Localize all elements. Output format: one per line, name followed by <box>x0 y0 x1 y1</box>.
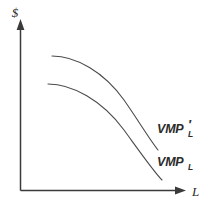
y-axis-label: $ <box>12 5 19 20</box>
curve-label-vmp-l-subscript: L <box>188 162 193 172</box>
x-axis-label: L <box>191 184 199 199</box>
curve-label-vmp-prime-l-base: VMP <box>157 122 184 136</box>
vmp-diagram-svg: $ L VMP ′ L VMP L <box>0 0 208 207</box>
curve-vmp-prime-l <box>52 56 158 150</box>
x-axis-arrowhead-icon <box>175 187 186 195</box>
curve-label-vmp-prime-l-subscript: L <box>188 129 193 139</box>
y-axis-arrowhead-icon <box>17 19 25 30</box>
curve-label-vmp-l: VMP L <box>157 155 193 172</box>
figure-canvas: $ L VMP ′ L VMP L <box>0 0 208 207</box>
curve-label-vmp-l-base: VMP <box>157 155 184 169</box>
curve-label-vmp-prime-l: VMP ′ L <box>157 118 193 139</box>
